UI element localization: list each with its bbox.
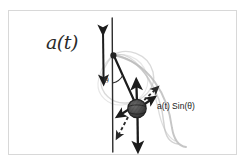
drive-acceleration-label: a(t) [46, 31, 78, 53]
swing-arcs [98, 52, 186, 147]
pendulum-diagram-figure: a(t) a(t) Sin(θ) θ [0, 0, 246, 167]
angle-arc [113, 75, 123, 83]
pivot-point-dot [110, 52, 116, 58]
support-rod [112, 18, 113, 152]
tangential-component-label: a(t) Sin(θ) [157, 101, 195, 111]
angle-theta-label: θ [104, 76, 109, 85]
diagram-canvas [0, 0, 246, 167]
pendulum-bob-circle [128, 99, 146, 117]
drive-arrow [103, 30, 104, 80]
